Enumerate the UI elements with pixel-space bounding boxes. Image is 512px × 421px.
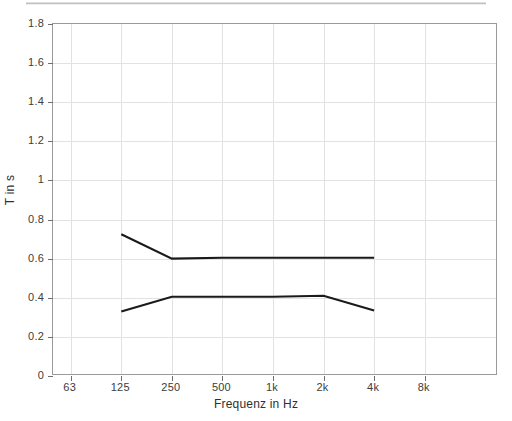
x-tick-label: 250 bbox=[161, 381, 180, 393]
y-tick-label: 1.4 bbox=[28, 95, 44, 107]
y-tick-label: 0.8 bbox=[28, 213, 44, 225]
y-tick-label: 0.6 bbox=[28, 252, 44, 264]
series-line-upper-tolerance-curve bbox=[121, 234, 374, 258]
y-tick-label: 1.8 bbox=[28, 17, 44, 29]
plot-area bbox=[52, 23, 497, 375]
y-axis-title: T in s bbox=[3, 155, 17, 225]
data-series-layer bbox=[53, 24, 498, 376]
x-tick-label: 2k bbox=[317, 381, 329, 393]
series-line-lower-tolerance-curve bbox=[121, 296, 374, 312]
x-tick-label: 8k bbox=[418, 381, 430, 393]
y-tick-label: 0.4 bbox=[28, 291, 44, 303]
chart-figure: 1.81.61.41.210.80.60.40.20 631252505001k… bbox=[0, 0, 512, 421]
x-axis-title: Frequenz in Hz bbox=[0, 397, 512, 411]
y-tick-label: 1 bbox=[38, 173, 44, 185]
y-tick-label: 0 bbox=[38, 369, 44, 381]
y-tick-label: 1.6 bbox=[28, 56, 44, 68]
x-tick-label: 4k bbox=[367, 381, 379, 393]
x-axis-tick-labels: 631252505001k2k4k8k bbox=[52, 381, 497, 397]
y-tick-label: 0.2 bbox=[28, 330, 44, 342]
y-tick-label: 1.2 bbox=[28, 134, 44, 146]
y-tick-mark bbox=[48, 376, 53, 377]
x-tick-label: 500 bbox=[212, 381, 231, 393]
x-tick-label: 63 bbox=[63, 381, 76, 393]
x-tick-label: 125 bbox=[111, 381, 130, 393]
x-tick-label: 1k bbox=[266, 381, 278, 393]
